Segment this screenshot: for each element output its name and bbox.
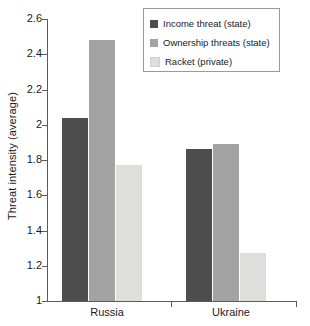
bar-ukraine-series-1: [213, 144, 239, 301]
y-axis-tick-label: 1.2: [8, 260, 42, 271]
x-axis-line: [47, 301, 297, 302]
x-axis-category-label-russia: Russia: [62, 306, 152, 318]
bar-russia-series-1: [89, 40, 115, 301]
y-axis-tick: [42, 301, 47, 302]
legend: Income threat (state) Ownership threats …: [143, 8, 280, 72]
y-axis-tick-label: 1.6: [8, 189, 42, 200]
y-axis-tick-label: 2.6: [8, 13, 42, 24]
bar-chart: Threat intensity (average) 11.21.41.61.8…: [0, 0, 310, 326]
legend-item-label: Racket (private): [165, 57, 232, 67]
legend-item: Ownership threats (state): [150, 34, 279, 51]
bar-russia-series-0: [62, 118, 88, 301]
y-axis-tick-label: 1.4: [8, 225, 42, 236]
bar-ukraine-series-2: [240, 253, 266, 301]
y-axis-tick-label: 2: [8, 119, 42, 130]
legend-swatch-icon: [150, 57, 160, 67]
legend-item: Racket (private): [150, 53, 279, 70]
legend-swatch-icon: [150, 20, 158, 28]
x-axis-right-cap: [296, 301, 297, 307]
y-axis-tick-label: 1: [8, 295, 42, 306]
bar-group-russia: [62, 19, 142, 301]
y-axis-tick-label: 2.2: [8, 84, 42, 95]
legend-item-label: Ownership threats (state): [163, 38, 270, 48]
y-axis-tick-label: 1.8: [8, 154, 42, 165]
legend-swatch-icon: [150, 39, 158, 47]
legend-item: Income threat (state): [150, 15, 279, 32]
bar-russia-series-2: [116, 165, 142, 301]
x-axis-group-divider-tick: [171, 301, 172, 307]
bar-ukraine-series-0: [186, 149, 212, 301]
y-axis-tick-label: 2.4: [8, 48, 42, 59]
legend-item-label: Income threat (state): [163, 19, 251, 29]
x-axis-category-label-ukraine: Ukraine: [186, 306, 276, 318]
